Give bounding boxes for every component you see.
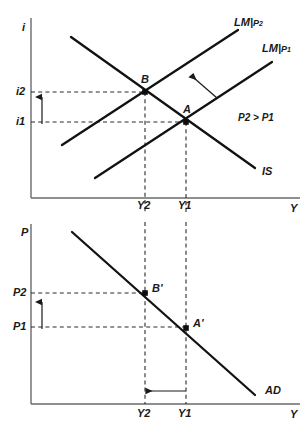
tick-label-P1: P1 <box>13 321 26 332</box>
bottom-chart-curves <box>72 232 255 395</box>
annotation-price-condition: P2 > P1 <box>238 113 274 123</box>
top-chart-y-axis-label: i <box>22 22 25 33</box>
curve-label-is: IS <box>262 166 272 177</box>
point-marker-B <box>142 89 148 95</box>
figure-canvas <box>0 0 308 434</box>
curve-lm-p2 <box>62 30 238 145</box>
bottom-chart-points <box>142 290 189 331</box>
tick-label-Y1-top: Y1 <box>178 200 191 211</box>
point-label-A-prime: A' <box>193 318 204 329</box>
curve-label-ad: AD <box>265 385 281 396</box>
curve-label-lm-p2: LM|P2 <box>234 17 263 28</box>
point-marker-A <box>183 119 189 125</box>
bottom-chart-guides <box>31 222 189 404</box>
curve-is <box>71 37 255 168</box>
curve-ad <box>72 232 255 395</box>
tick-label-i2: i2 <box>16 86 25 97</box>
tick-label-Y2-bottom: Y2 <box>137 408 150 419</box>
economics-figure: i Y i2 i1 Y2 Y1 B A LM|P2 LM|P1 IS P2 > … <box>0 0 308 434</box>
point-label-B: B <box>141 74 149 85</box>
top-chart-axes <box>31 18 300 198</box>
tick-label-Y2-top: Y2 <box>137 200 150 211</box>
top-chart-x-axis-label: Y <box>290 203 297 214</box>
tick-label-Y1-bottom: Y1 <box>178 408 191 419</box>
point-marker-B-prime <box>142 290 148 296</box>
point-label-A: A <box>183 104 191 115</box>
bottom-chart-x-axis-label: Y <box>290 409 297 420</box>
top-chart-points <box>142 89 189 125</box>
arrow-lm-shift <box>194 78 217 98</box>
top-chart-guides <box>31 92 189 212</box>
tick-label-P2: P2 <box>13 287 26 298</box>
top-chart-curves <box>62 30 272 178</box>
tick-label-i1: i1 <box>16 116 25 127</box>
point-label-B-prime: B' <box>152 283 163 294</box>
bottom-chart-y-axis-label: P <box>21 227 28 238</box>
point-marker-A-prime <box>183 325 189 331</box>
curve-label-lm-p1: LM|P1 <box>262 43 291 54</box>
